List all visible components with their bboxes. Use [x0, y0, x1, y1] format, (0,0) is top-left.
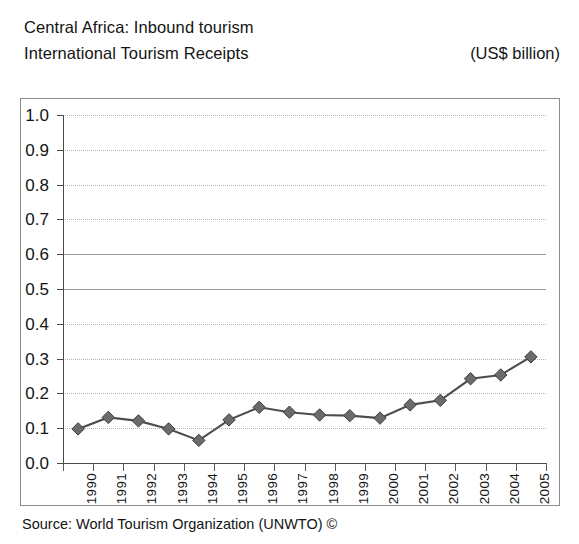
source-note: Source: World Tourism Organization (UNWT…: [22, 516, 337, 532]
data-point-marker: [253, 401, 265, 413]
y-axis-tick-label: 0.5: [25, 280, 49, 300]
x-axis-tick-label: 1994: [205, 473, 220, 504]
data-point-marker: [495, 369, 507, 381]
x-axis-tick-label: 1996: [265, 473, 280, 504]
chart-units-label: (US$ billion): [470, 44, 560, 63]
x-axis-tick: [184, 463, 185, 471]
data-point-marker: [193, 434, 205, 446]
data-point-marker: [162, 423, 174, 435]
y-axis-tick-label: 1.0: [25, 106, 49, 126]
x-axis-tick: [154, 463, 155, 471]
plot-area: 0.00.10.20.30.40.50.60.70.80.91.0 199019…: [63, 115, 546, 463]
x-axis-tick: [455, 463, 456, 471]
x-axis-tick-label: 1997: [295, 473, 310, 504]
x-axis-tick: [63, 463, 64, 471]
chart-title-block: Central Africa: Inbound tourism Internat…: [24, 14, 564, 66]
x-axis-tick: [123, 463, 124, 471]
x-axis-tick-label: 1995: [235, 473, 250, 504]
data-point-marker: [102, 411, 114, 423]
y-axis-tick-label: 0.6: [25, 245, 49, 265]
x-axis-tick: [546, 463, 547, 471]
data-point-marker: [283, 406, 295, 418]
x-axis-tick: [395, 463, 396, 471]
y-axis-tick-label: 0.4: [25, 315, 49, 335]
x-axis-tick: [305, 463, 306, 471]
x-axis-tick: [93, 463, 94, 471]
x-axis-tick-label: 1992: [144, 473, 159, 504]
x-axis-tick: [244, 463, 245, 471]
data-point-marker: [404, 399, 416, 411]
x-axis-tick-label: 2000: [386, 473, 401, 504]
x-axis-tick: [214, 463, 215, 471]
x-axis-tick: [335, 463, 336, 471]
x-axis-tick-label: 1993: [175, 473, 190, 504]
chart-frame: 0.00.10.20.30.40.50.60.70.80.91.0 199019…: [20, 98, 560, 506]
x-axis-tick-label: 2001: [416, 473, 431, 504]
x-axis-tick-label: 2002: [446, 473, 461, 504]
data-point-marker: [344, 409, 356, 421]
x-axis-tick-label: 1990: [84, 473, 99, 504]
x-axis-tick: [365, 463, 366, 471]
x-axis-tick: [486, 463, 487, 471]
x-axis-tick-label: 1999: [356, 473, 371, 504]
chart-title-secondary: International Tourism Receipts: [24, 40, 249, 66]
y-axis-tick-label: 0.8: [25, 176, 49, 196]
data-point-marker: [525, 351, 537, 363]
data-point-marker: [374, 412, 386, 424]
x-axis-tick: [425, 463, 426, 471]
series-markers-group: [72, 351, 537, 447]
x-axis-tick-label: 2005: [537, 473, 552, 504]
y-axis-tick-label: 0.3: [25, 350, 49, 370]
chart-title-row: International Tourism Receipts (US$ bill…: [24, 40, 560, 66]
data-point-marker: [132, 415, 144, 427]
series-polyline: [78, 357, 531, 441]
data-point-marker: [313, 409, 325, 421]
y-axis-tick-label: 0.9: [25, 141, 49, 161]
y-axis-tick-label: 0.7: [25, 210, 49, 230]
x-axis-tick-label: 2003: [477, 473, 492, 504]
data-series-line: [63, 115, 546, 463]
y-axis-tick-label: 0.0: [25, 454, 49, 474]
x-axis-tick-label: 1998: [326, 473, 341, 504]
y-axis-tick-label: 0.2: [25, 384, 49, 404]
x-axis-tick: [516, 463, 517, 471]
data-point-marker: [72, 423, 84, 435]
data-point-marker: [223, 414, 235, 426]
x-axis-tick-label: 1991: [114, 473, 129, 504]
y-axis-tick-label: 0.1: [25, 419, 49, 439]
x-axis-tick: [274, 463, 275, 471]
chart-title-primary: Central Africa: Inbound tourism: [24, 14, 564, 40]
x-axis-tick-label: 2004: [507, 473, 522, 504]
